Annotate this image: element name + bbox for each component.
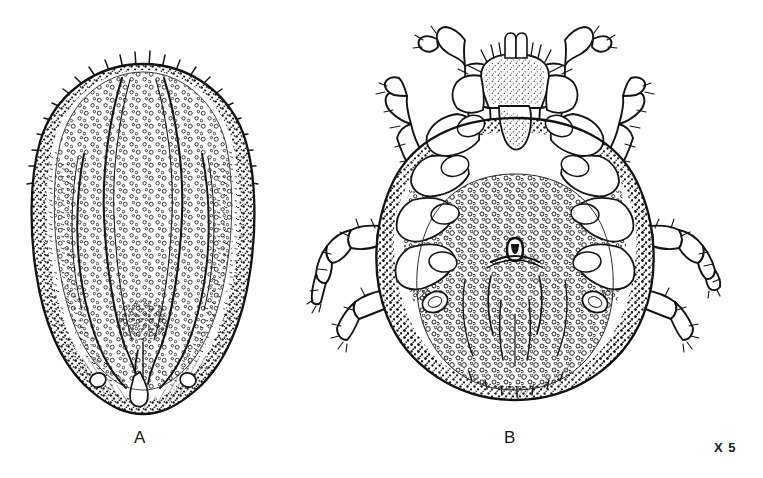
chelicerae [505,33,516,58]
central-punctation-patch [119,300,167,340]
figure-label-a: A [110,428,170,448]
figure-a-dorsal-view [18,58,268,418]
illustration-plate: A B X 5 [0,0,763,478]
palp-left [453,75,484,113]
figure-a-drawing [18,58,268,418]
figure-b-ventral-view [305,14,725,418]
magnification-label: X 5 [714,440,737,455]
figure-b-drawing [305,14,725,418]
palp-right [546,75,577,113]
figure-label-b: B [480,428,540,448]
